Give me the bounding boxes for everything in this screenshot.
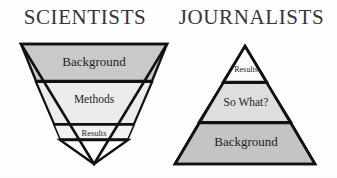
scientists-band-label-results: Results [62, 128, 126, 138]
journalists-band-label-background: Background [188, 134, 304, 150]
scientists-triangle-tip [60, 140, 128, 164]
journalists-band-label-sowhat: So What? [203, 96, 289, 108]
panel-title-scientists: SCIENTISTS [0, 5, 170, 30]
scientists-band-label-methods: Methods [40, 93, 148, 105]
journalists-band-label-results: Results [216, 65, 276, 74]
scientists-band-label-background: Background [24, 54, 164, 70]
figure-canvas: SCIENTISTS JOURNALISTS Background Method… [0, 0, 337, 178]
panel-title-journalists: JOURNALISTS [166, 5, 337, 30]
journalists-band-results-shape [223, 46, 267, 82]
